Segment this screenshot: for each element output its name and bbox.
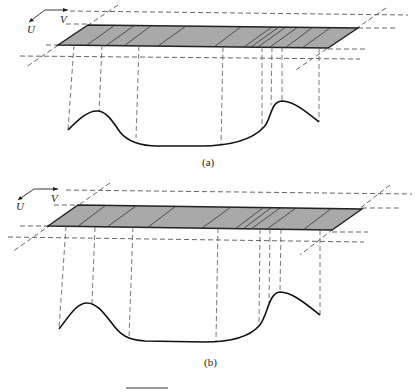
axis-label-u: U (16, 200, 25, 212)
guide-line-top (70, 11, 408, 15)
projection-lines-b (59, 226, 320, 341)
axis-label-v: V (51, 192, 59, 204)
profile-curve-b (59, 292, 320, 342)
guide-line-lower (8, 237, 364, 242)
axis-label-u: U (27, 23, 36, 35)
caption-a: (a) (202, 156, 215, 169)
guide-line-lower (20, 56, 360, 59)
projection-lines-a (68, 45, 319, 145)
axis-label-v: V (60, 13, 68, 25)
profile-curve-a (68, 101, 319, 146)
tool-strip (58, 25, 358, 48)
panel-b: U V (8, 183, 412, 369)
panel-a: U V (20, 5, 408, 169)
guide-line-top (66, 190, 412, 194)
caption-b: (b) (204, 356, 217, 369)
diagram-canvas: U V (0, 0, 415, 392)
